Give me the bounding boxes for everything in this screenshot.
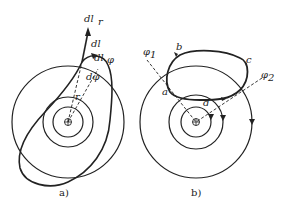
- label-dlr: dl: [84, 13, 94, 24]
- figure-b: [140, 51, 262, 178]
- label-dphi: dφ: [86, 71, 99, 82]
- label-dlphi: dl: [94, 52, 104, 63]
- svg-text:1: 1: [150, 49, 156, 60]
- label-a: a: [162, 86, 168, 97]
- diagram-canvas: dl r dl dl φ dφ r a) φ 1 φ 2 b c a d b): [0, 0, 286, 212]
- svg-text:2: 2: [267, 72, 274, 83]
- arrow-head-icon: [85, 27, 91, 36]
- closed-contour: [167, 51, 248, 100]
- svg-text:r: r: [98, 16, 104, 27]
- phi1-line: [147, 60, 196, 122]
- label-dl: dl: [91, 38, 101, 49]
- label-phi1: φ: [143, 46, 150, 57]
- arrow-head-icon: [249, 119, 255, 125]
- arrow-head-icon: [220, 115, 226, 121]
- svg-text:φ: φ: [107, 54, 114, 65]
- label-d: d: [203, 97, 209, 108]
- label-c: c: [246, 54, 252, 65]
- label-b: b: [176, 41, 182, 52]
- caption-b: b): [191, 187, 201, 198]
- figure-a: [12, 27, 124, 186]
- caption-a: a): [59, 187, 69, 198]
- label-phi2: φ: [261, 69, 268, 80]
- arrow-head-icon: [208, 114, 214, 120]
